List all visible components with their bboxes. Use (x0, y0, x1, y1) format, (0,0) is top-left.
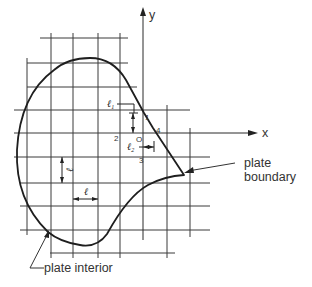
l2-arrow-left-icon (143, 145, 149, 149)
l1-arrow-down-icon (131, 127, 135, 133)
arrow-up-icon (60, 157, 64, 163)
callout-plate-boundary: plate boundary (184, 156, 297, 184)
dimension-l1: ℓ1 (107, 98, 138, 133)
arrow-right-icon (92, 197, 98, 201)
x-axis-label: x (262, 126, 269, 140)
arrow-left-icon (73, 197, 79, 201)
node-4-label: 4 (156, 126, 161, 135)
y-axis-label: y (149, 8, 156, 22)
node-2-label: 2 (114, 134, 119, 143)
boundary-arrow-icon (184, 167, 194, 173)
l2-symbol: ℓ2 (127, 141, 134, 153)
boundary-label-line1: plate (244, 156, 271, 170)
origin-label: O (136, 135, 142, 144)
coordinate-axes: y x (140, 7, 269, 240)
arrow-down-icon (60, 177, 64, 183)
x-arrow-icon (248, 130, 258, 136)
l1-symbol: ℓ1 (107, 98, 114, 110)
interior-label: plate interior (44, 261, 113, 275)
l1-arrow-up-icon (131, 113, 135, 119)
dimension-horizontal-spacing: ℓ (73, 186, 98, 201)
node-3-label: 3 (139, 156, 144, 165)
node-1-label: 1 (145, 113, 150, 122)
horizontal-spacing-symbol: ℓ (84, 186, 88, 197)
plate-boundary-curve (17, 58, 184, 246)
y-arrow-icon (140, 7, 146, 16)
boundary-label-line2: boundary (244, 170, 297, 184)
vertical-spacing-symbol: ℓ (64, 168, 75, 172)
plate-grid-diagram: y x 1 2 O 3 4 ℓ1 ℓ2 ℓ (0, 0, 312, 287)
